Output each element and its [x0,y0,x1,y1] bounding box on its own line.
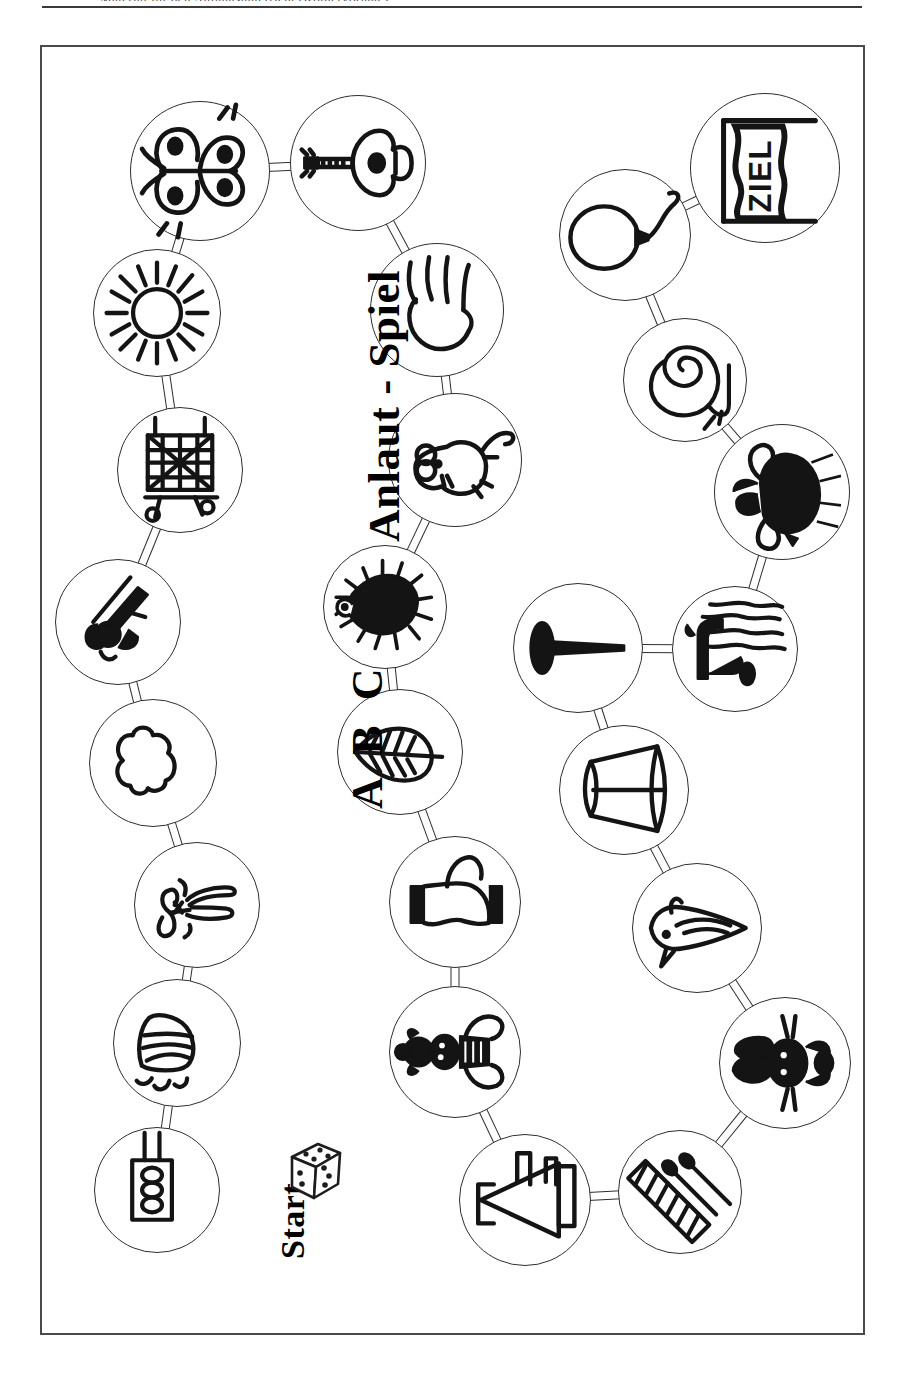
board-space-14[interactable] [389,836,521,968]
cloud-icon [90,700,216,826]
sun-icon [94,250,220,376]
board-space-9[interactable] [290,95,426,231]
board-space-16[interactable] [459,1134,591,1266]
board-space-5[interactable] [55,559,181,685]
matches-icon [619,1131,741,1253]
goal-flag-icon: ZIEL [691,94,839,242]
broom-icon [114,980,240,1106]
space-connector [161,373,175,412]
balloon-icon [560,170,690,300]
board-space-7[interactable] [93,249,221,377]
lampshade-icon [560,726,688,854]
board-space-24[interactable] [623,318,747,442]
board-space-2[interactable] [113,979,241,1107]
board-space-1[interactable] [94,1127,220,1253]
dice-icon [284,1135,346,1205]
nail-icon [514,584,642,712]
bird-icon [633,864,761,992]
sock-icon [390,837,520,967]
space-connector [640,644,675,653]
electric-plug-icon [95,1128,219,1252]
fence-net-icon [118,408,242,532]
header-rule [42,6,862,8]
board-space-8[interactable] [130,101,270,241]
board-space-19[interactable] [632,863,762,993]
butterfly-icon [131,102,269,240]
svg-text:ZIEL: ZIEL [743,139,778,212]
board-space-18[interactable] [719,997,851,1129]
board-space-17[interactable] [618,1130,742,1254]
crown-icon [460,1135,590,1265]
board-space-12[interactable] [323,545,447,669]
page-header-fragment: Material für den Anfangsunterricht (Kopi… [100,0,800,1]
board-space-26[interactable]: ZIEL [690,93,840,243]
hunter-rifle-icon [56,560,180,684]
board-space-15[interactable] [389,986,521,1118]
hedgehog-icon [324,546,446,668]
board-space-3[interactable] [134,842,260,968]
board-space-6[interactable] [117,407,243,533]
board-subtitle: A B C [342,662,393,809]
game-board-frame: ZIEL Anlaut - Spiel A B C Start [40,45,865,1335]
board-space-22[interactable] [672,586,798,712]
board-space-20[interactable] [559,725,689,855]
person-bow-icon [135,843,259,967]
faucet-icon [673,587,797,711]
board-space-23[interactable] [714,424,850,560]
bull-icon [715,425,849,559]
board-space-25[interactable] [559,169,691,301]
snail-icon [624,319,746,441]
board-title: Anlaut - Spiel [358,270,410,542]
clown-doll-icon [390,987,520,1117]
board-space-4[interactable] [89,699,217,827]
board-space-21[interactable] [513,583,643,713]
guitar-icon [291,96,425,230]
rabbit-icon [720,998,850,1128]
space-connector [588,1191,622,1202]
